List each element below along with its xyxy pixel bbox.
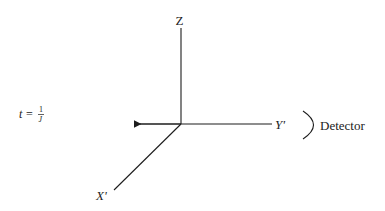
- detector-arc-icon: [303, 111, 314, 139]
- time-equation: t = 1 J: [19, 105, 44, 124]
- z-axis-label: Z: [176, 13, 184, 28]
- equation-denominator: J: [39, 115, 43, 124]
- equation-numerator: 1: [39, 105, 43, 114]
- x-prime-axis-label: X': [95, 188, 107, 203]
- equation-equals: =: [26, 107, 33, 121]
- equation-lhs: t: [19, 107, 23, 121]
- coordinate-diagram: Z Y' X' Detector t = 1 J: [0, 0, 385, 211]
- detector-label: Detector: [320, 118, 365, 133]
- y-prime-axis-label: Y': [275, 117, 285, 132]
- x-prime-axis: [114, 124, 181, 190]
